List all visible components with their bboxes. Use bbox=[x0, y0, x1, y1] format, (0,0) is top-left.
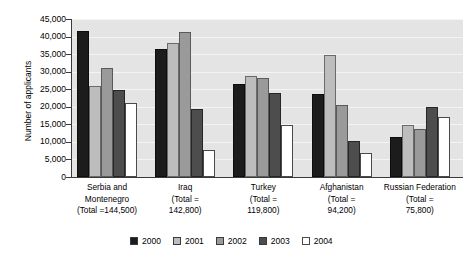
y-axis-tick-label: 45,000 bbox=[4, 15, 66, 24]
category-label: Serbia andMontenegro(Total =144,500) bbox=[68, 182, 146, 217]
bar-group bbox=[233, 19, 293, 177]
bar bbox=[426, 107, 438, 177]
legend-swatch-icon bbox=[130, 237, 138, 245]
category-label-line: Serbia and bbox=[68, 182, 146, 194]
y-axis-tick-label: 20,000 bbox=[4, 102, 66, 111]
category-label-line: (Total = bbox=[381, 194, 459, 206]
y-axis-tick-label: 10,000 bbox=[4, 137, 66, 146]
y-axis-tick-label: 30,000 bbox=[4, 67, 66, 76]
y-axis-tick-label: 0 bbox=[4, 173, 66, 182]
x-axis-line bbox=[71, 177, 463, 178]
bar bbox=[89, 86, 101, 177]
category-label-line: Iraq bbox=[146, 182, 224, 194]
legend-item[interactable]: 2001 bbox=[173, 236, 204, 246]
y-axis-tick bbox=[66, 89, 72, 90]
category-label-line: (Total = bbox=[224, 194, 302, 206]
bar bbox=[348, 141, 360, 177]
y-axis-tick-label: 35,000 bbox=[4, 50, 66, 59]
bars-layer bbox=[72, 19, 463, 177]
category-label: Iraq(Total =142,800) bbox=[146, 182, 224, 217]
category-label-line: (Total = bbox=[146, 194, 224, 206]
category-label: Turkey(Total =119,800) bbox=[224, 182, 302, 217]
category-label-line: 75,800) bbox=[381, 205, 459, 217]
bar bbox=[77, 31, 89, 177]
legend-label: 2000 bbox=[142, 236, 161, 246]
y-axis-tick-label: 5,000 bbox=[4, 155, 66, 164]
y-axis-tick bbox=[66, 142, 72, 143]
y-axis-tick bbox=[66, 54, 72, 55]
bar bbox=[233, 84, 245, 177]
category-label-line: Afghanistan bbox=[303, 182, 381, 194]
bar bbox=[245, 76, 257, 177]
x-axis-category-labels: Serbia andMontenegro(Total =144,500)Iraq… bbox=[72, 182, 463, 230]
legend-item[interactable]: 2000 bbox=[130, 236, 161, 246]
legend-swatch-icon bbox=[259, 237, 267, 245]
bar bbox=[257, 78, 269, 177]
bar-group bbox=[390, 19, 450, 177]
legend-item[interactable]: 2004 bbox=[302, 236, 333, 246]
y-axis-tick-label: 25,000 bbox=[4, 85, 66, 94]
legend-label: 2001 bbox=[185, 236, 204, 246]
bar bbox=[269, 93, 281, 177]
bar-chart: 45,00040,00035,00030,00025,00020,00015,0… bbox=[0, 0, 463, 260]
bar bbox=[179, 32, 191, 177]
bar bbox=[281, 125, 293, 177]
y-axis-tick bbox=[66, 72, 72, 73]
legend-swatch-icon bbox=[173, 237, 181, 245]
bar bbox=[336, 105, 348, 177]
legend-swatch-icon bbox=[302, 237, 310, 245]
y-axis-title: Number of applicants bbox=[23, 26, 33, 176]
category-label-line: Montenegro bbox=[68, 194, 146, 206]
category-label-line: 94,200) bbox=[303, 205, 381, 217]
bar bbox=[414, 129, 426, 177]
y-axis-tick bbox=[66, 107, 72, 108]
bar bbox=[390, 137, 402, 177]
bar bbox=[360, 153, 372, 177]
bar bbox=[113, 90, 125, 177]
category-label-line: (Total =144,500) bbox=[68, 205, 146, 217]
chart-legend: 20002001200220032004 bbox=[130, 236, 333, 246]
y-axis-tick bbox=[66, 37, 72, 38]
bar bbox=[438, 117, 450, 177]
bar bbox=[312, 94, 324, 177]
legend-label: 2004 bbox=[314, 236, 333, 246]
bar bbox=[203, 150, 215, 177]
category-label-line: Turkey bbox=[224, 182, 302, 194]
legend-item[interactable]: 2002 bbox=[216, 236, 247, 246]
bar-group bbox=[77, 19, 137, 177]
y-axis-tick bbox=[66, 159, 72, 160]
bar bbox=[101, 68, 113, 177]
legend-label: 2002 bbox=[228, 236, 247, 246]
y-axis-tick-label: 15,000 bbox=[4, 120, 66, 129]
category-label-line: 142,800) bbox=[146, 205, 224, 217]
y-axis-tick-label: 40,000 bbox=[4, 32, 66, 41]
category-label: Afghanistan(Total =94,200) bbox=[303, 182, 381, 217]
category-label-line: 119,800) bbox=[224, 205, 302, 217]
bar bbox=[155, 49, 167, 177]
legend-swatch-icon bbox=[216, 237, 224, 245]
y-axis-tick bbox=[66, 124, 72, 125]
bar-group bbox=[312, 19, 372, 177]
legend-item[interactable]: 2003 bbox=[259, 236, 290, 246]
y-axis-tick bbox=[66, 19, 72, 20]
bar bbox=[167, 43, 179, 177]
category-label-line: (Total = bbox=[303, 194, 381, 206]
category-label: Russian Federation(Total =75,800) bbox=[381, 182, 459, 217]
category-label-line: Russian Federation bbox=[381, 182, 459, 194]
y-axis-tick bbox=[66, 177, 72, 178]
legend-label: 2003 bbox=[271, 236, 290, 246]
bar bbox=[402, 125, 414, 177]
bar bbox=[125, 103, 137, 177]
y-axis-tick-labels: 45,00040,00035,00030,00025,00020,00015,0… bbox=[0, 0, 66, 200]
bar bbox=[324, 55, 336, 177]
bar bbox=[191, 109, 203, 177]
bar-group bbox=[155, 19, 215, 177]
